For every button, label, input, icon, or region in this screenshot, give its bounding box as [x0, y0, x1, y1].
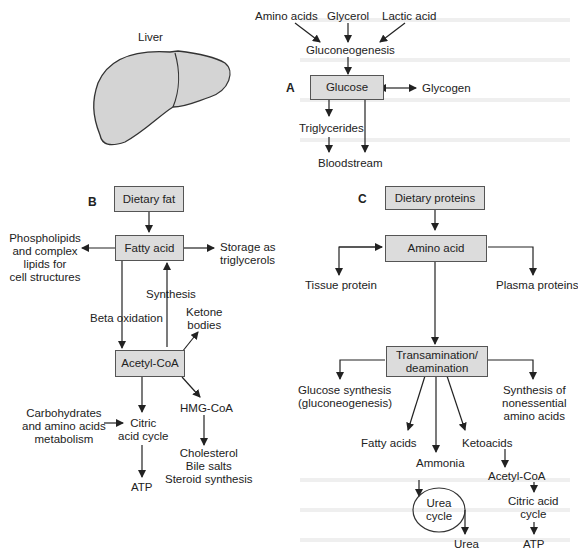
- urea-cycle-label: Urea cycle: [424, 497, 454, 523]
- nonessential-amino-acids-label: Synthesis of nonessential amino acids: [502, 384, 567, 423]
- tissue-protein-label: Tissue protein: [305, 279, 377, 292]
- cholesterol-label: Cholesterol Bile salts Steroid synthesis: [165, 447, 253, 486]
- amino-acid-box: Amino acid: [385, 235, 487, 262]
- acetyl-coa-box: Acetyl-CoA: [115, 350, 185, 377]
- glycogen-label: Glycogen: [422, 82, 471, 95]
- atp-label-c: ATP: [523, 538, 545, 551]
- glycerol-label: Glycerol: [327, 10, 369, 23]
- gluconeogenesis-label: Gluconeogenesis: [306, 44, 395, 57]
- liver-metabolism-diagram: Liver Amino acids Glycerol Lactic acid G…: [0, 0, 578, 554]
- glucose-box: Glucose: [310, 75, 384, 100]
- carbohydrates-label: Carbohydrates and amino acids metabolism: [22, 407, 106, 446]
- section-b-letter: B: [88, 195, 97, 209]
- synthesis-label: Synthesis: [146, 288, 196, 301]
- hmg-coa-label: HMG-CoA: [180, 402, 233, 415]
- amino-acids-label: Amino acids: [255, 10, 318, 23]
- phospholipids-label: Phospholipids and complex lipids for cel…: [8, 232, 82, 284]
- section-c-letter: C: [358, 192, 367, 206]
- citric-acid-cycle-label-c: Citric acid cycle: [508, 495, 558, 521]
- liver-illustration: [90, 45, 240, 155]
- plasma-proteins-label: Plasma proteins: [496, 279, 578, 292]
- fatty-acid-box: Fatty acid: [115, 235, 184, 261]
- atp-label-b: ATP: [131, 481, 153, 494]
- ketone-bodies-label: Ketone bodies: [186, 306, 222, 332]
- ketoacids-label: Ketoacids: [462, 437, 513, 450]
- storage-triglycerols-label: Storage as triglycerols: [220, 241, 276, 267]
- lactic-acid-label: Lactic acid: [382, 10, 436, 23]
- glucose-synthesis-label: Glucose synthesis (gluconeogenesis): [298, 384, 392, 410]
- triglycerides-label: Triglycerides: [299, 122, 364, 135]
- dietary-proteins-box: Dietary proteins: [385, 186, 485, 210]
- ammonia-label: Ammonia: [416, 457, 465, 470]
- bloodstream-label: Bloodstream: [318, 157, 383, 170]
- fatty-acids-label: Fatty acids: [361, 437, 417, 450]
- beta-oxidation-label: Beta oxidation: [90, 312, 163, 325]
- transamination-box: Transamination/deamination: [386, 346, 488, 377]
- acetyl-coa-label-c: Acetyl-CoA: [488, 470, 546, 483]
- liver-label: Liver: [138, 31, 163, 44]
- citric-acid-cycle-label: Citric acid cycle: [118, 417, 169, 443]
- dietary-fat-box: Dietary fat: [114, 186, 184, 212]
- section-a-letter: A: [286, 81, 295, 95]
- urea-label: Urea: [454, 538, 479, 551]
